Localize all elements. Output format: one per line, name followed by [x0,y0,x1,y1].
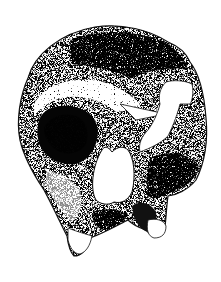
nasal-aperture [93,147,134,204]
skull-illustration [0,0,221,282]
figure-canvas [0,0,221,282]
